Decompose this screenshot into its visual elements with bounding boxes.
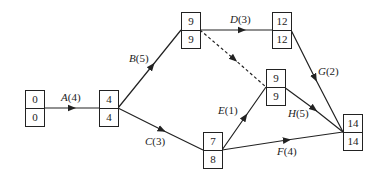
node-5: 9 9	[266, 69, 286, 106]
label-f: F(4)	[277, 145, 297, 157]
label-e: E(1)	[218, 104, 238, 116]
node-5-latest: 9	[267, 88, 285, 105]
node-1-latest: 0	[26, 109, 44, 126]
node-2-latest: 4	[100, 109, 118, 126]
node-7-earliest: 14	[344, 115, 362, 133]
label-h: H(5)	[288, 107, 309, 119]
node-3-earliest: 9	[182, 13, 200, 31]
node-7-latest: 14	[344, 133, 362, 150]
node-3: 9 9	[181, 12, 201, 49]
node-3-latest: 9	[182, 31, 200, 48]
label-g: G(2)	[318, 65, 339, 77]
label-c: C(3)	[145, 135, 165, 147]
label-a: A(4)	[61, 91, 81, 103]
edge-dummy	[200, 30, 266, 87]
label-d: D(3)	[230, 13, 251, 25]
edge-b	[118, 30, 181, 108]
node-6: 7 8	[203, 132, 223, 169]
node-5-earliest: 9	[267, 70, 285, 88]
node-4-latest: 12	[273, 31, 291, 48]
node-4-earliest: 12	[273, 13, 291, 31]
node-6-latest: 8	[204, 151, 222, 168]
node-7: 14 14	[343, 114, 363, 151]
label-b: B(5)	[129, 52, 149, 64]
node-1: 0 0	[25, 90, 45, 127]
node-2-earliest: 4	[100, 91, 118, 109]
edge-e	[222, 87, 266, 150]
node-6-earliest: 7	[204, 133, 222, 151]
node-1-earliest: 0	[26, 91, 44, 109]
node-2: 4 4	[99, 90, 119, 127]
node-4: 12 12	[272, 12, 292, 49]
